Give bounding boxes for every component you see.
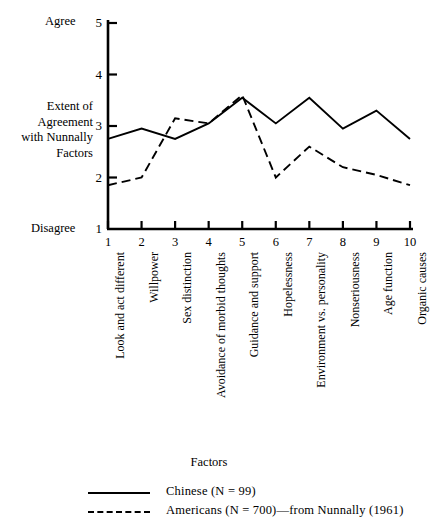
x-category-label: Willpower <box>147 252 162 303</box>
series-line-dashed <box>108 95 410 185</box>
y-tick-label: 2 <box>88 170 102 186</box>
x-tick-label: 2 <box>134 235 150 250</box>
y-axis-title-line: Agreement <box>0 115 93 131</box>
x-tick-label: 4 <box>201 235 217 250</box>
chart-legend: Chinese (N = 99) Americans (N = 700)—fro… <box>88 484 418 522</box>
y-axis-title: Extent of Agreement with Nunnally Factor… <box>0 99 93 161</box>
x-category-label: Sex distinction <box>180 252 195 324</box>
x-category-label: Age function <box>381 252 396 315</box>
y-axis-title-line: Factors <box>0 146 93 162</box>
legend-line-dashed-icon <box>88 511 150 513</box>
x-tick-label: 7 <box>301 235 317 250</box>
y-axis-ticks <box>108 23 117 178</box>
x-category-label: Nonseriousness <box>348 252 363 327</box>
data-series-group <box>108 95 410 185</box>
legend-label: Chinese (N = 99) <box>166 484 256 499</box>
x-category-label: Avoidance of morbid thoughts <box>214 252 229 398</box>
legend-item: Chinese (N = 99) <box>88 484 418 503</box>
x-tick-label: 10 <box>402 235 418 250</box>
legend-line-solid-icon <box>88 492 150 494</box>
x-tick-label: 1 <box>100 235 116 250</box>
x-tick-label: 8 <box>335 235 351 250</box>
y-axis-title-line: Extent of <box>0 99 93 115</box>
x-tick-label: 5 <box>234 235 250 250</box>
x-category-label: Environment vs. personality <box>314 252 329 388</box>
x-category-label: Guidance and support <box>247 252 262 357</box>
y-tick-label: 4 <box>88 67 102 83</box>
y-axis-high-label: Agree <box>45 14 76 29</box>
x-category-label: Look and act different <box>113 252 128 359</box>
x-axis-title: Factors <box>0 455 418 470</box>
x-tick-label: 9 <box>368 235 384 250</box>
legend-item: Americans (N = 700)—from Nunnally (1961) <box>88 503 418 522</box>
legend-label: Americans (N = 700)—from Nunnally (1961) <box>166 503 404 518</box>
y-axis-title-line: with Nunnally <box>0 130 93 146</box>
x-category-label: Hopelessness <box>281 252 296 317</box>
y-axis-low-label: Disagree <box>31 221 75 236</box>
y-tick-label: 3 <box>88 118 102 134</box>
x-tick-label: 3 <box>167 235 183 250</box>
x-tick-label: 6 <box>268 235 284 250</box>
x-category-label: Organic causes <box>415 252 430 325</box>
y-tick-label: 5 <box>88 15 102 31</box>
series-line-solid <box>108 98 410 139</box>
